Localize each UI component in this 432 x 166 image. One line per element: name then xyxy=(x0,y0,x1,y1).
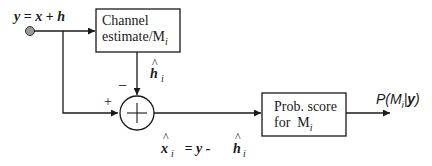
channel-estimate-label: Channel estimate/Mi xyxy=(102,13,168,50)
channel-estimation-diagram: y = x + h Channel estimate/Mi ^ h i − + … xyxy=(0,0,432,166)
residual-equation: ^ x i = y - ^ h i xyxy=(155,131,265,161)
input-node-icon xyxy=(26,27,35,36)
prob-score-label: Prob. score for Mi xyxy=(274,99,337,136)
minus-sign: − xyxy=(118,78,127,94)
input-label: y = x + h xyxy=(14,10,65,24)
output-label: P(Mi|y) xyxy=(376,92,420,110)
plus-sign: + xyxy=(104,95,112,109)
